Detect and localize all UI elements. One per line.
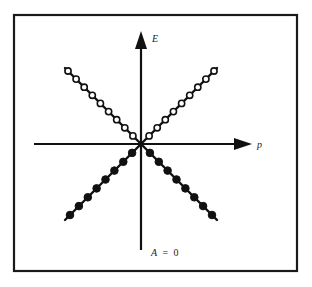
hollow-circle-marker bbox=[130, 133, 136, 139]
filled-circle-marker bbox=[102, 176, 110, 184]
hollow-circle-marker bbox=[89, 92, 95, 98]
hollow-circle-marker bbox=[122, 125, 128, 131]
filled-circle-marker bbox=[182, 185, 190, 193]
caption-equals: = bbox=[162, 247, 168, 258]
axis-label-p: p bbox=[256, 139, 262, 150]
horizontal-axis-p bbox=[34, 138, 252, 150]
filled-circle-marker bbox=[75, 202, 83, 210]
filled-circle-marker bbox=[155, 158, 163, 166]
hollow-circle-marker bbox=[97, 100, 103, 106]
filled-circle-marker bbox=[208, 211, 216, 219]
filled-circle-marker bbox=[146, 149, 154, 157]
caption-symbol: A bbox=[150, 247, 158, 258]
filled-circle-marker bbox=[120, 158, 128, 166]
hollow-circle-marker bbox=[65, 68, 71, 74]
caption-value: 0 bbox=[174, 247, 179, 258]
filled-circle-marker bbox=[164, 167, 172, 175]
diagram-canvas: E p A = 0 bbox=[0, 0, 312, 287]
hollow-circle-marker bbox=[114, 117, 120, 123]
filled-circle-marker bbox=[111, 167, 119, 175]
filled-circle-marker bbox=[128, 149, 136, 157]
filled-circle-marker bbox=[173, 176, 181, 184]
hollow-circle-marker bbox=[73, 76, 79, 82]
arrow-right-icon bbox=[234, 138, 252, 150]
hollow-circle-marker bbox=[170, 109, 176, 115]
filled-circle-marker bbox=[84, 194, 92, 202]
filled-circle-marker bbox=[191, 194, 199, 202]
hollow-circle-marker bbox=[162, 117, 168, 123]
upper-right-hollow-circles bbox=[146, 68, 217, 139]
arrow-up-icon bbox=[135, 31, 147, 49]
hollow-circle-marker bbox=[203, 76, 209, 82]
hollow-circle-marker bbox=[195, 84, 201, 90]
hollow-circle-marker bbox=[146, 133, 152, 139]
filled-circle-marker bbox=[66, 211, 74, 219]
filled-circle-marker bbox=[93, 185, 101, 193]
hollow-circle-marker bbox=[81, 84, 87, 90]
hollow-circle-marker bbox=[187, 92, 193, 98]
upper-left-hollow-circles bbox=[65, 68, 136, 139]
filled-circle-marker bbox=[199, 202, 207, 210]
hollow-circle-marker bbox=[154, 125, 160, 131]
hollow-circle-marker bbox=[179, 100, 185, 106]
hollow-circle-marker bbox=[211, 68, 217, 74]
axis-label-E: E bbox=[151, 33, 158, 44]
hollow-circle-marker bbox=[106, 109, 112, 115]
caption-A-equals-0: A = 0 bbox=[150, 247, 179, 258]
